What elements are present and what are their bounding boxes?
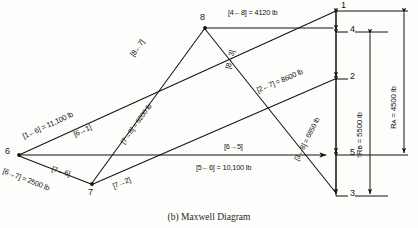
member-label-4-8: [4←8] = 4120 lb	[228, 9, 277, 16]
node-label-6: 6	[5, 147, 10, 156]
node-markers	[17, 9, 338, 186]
node-label-1: 1	[341, 1, 346, 10]
reaction-label-rb: ↑Rʙ = 5500 lb	[356, 112, 364, 159]
node-label-7: 7	[88, 188, 93, 197]
figure-caption: (b) Maxwell Diagram	[0, 212, 418, 222]
node-label-4: 4	[350, 25, 355, 34]
node-label-3: 3	[350, 189, 355, 198]
node-label-2: 2	[350, 72, 355, 81]
node-label-8: 8	[200, 13, 205, 22]
reaction-label-ra: Rᴀ = 4500 lb	[390, 86, 398, 129]
member-label-6-5: [6→5]	[224, 143, 243, 150]
member-label-5-6: [5←6] = 10,100 lb	[196, 164, 251, 171]
maxwell-diagram-figure: 1 4 8 2 6 5 7 3 [4←8] = 4120 lb [8←7] [7…	[0, 0, 418, 228]
